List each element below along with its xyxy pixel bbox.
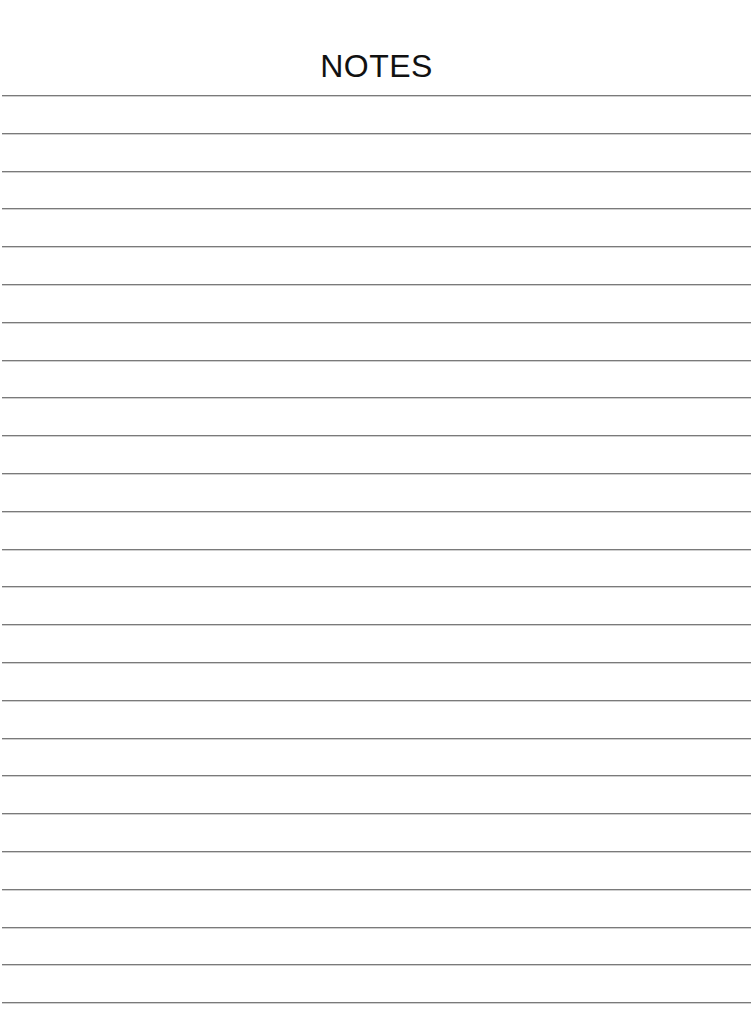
ruled-line <box>2 964 751 966</box>
ruled-line <box>2 700 751 702</box>
ruled-line <box>2 246 751 248</box>
ruled-line <box>2 662 751 664</box>
ruled-line <box>2 1002 751 1004</box>
ruled-line <box>2 95 751 97</box>
ruled-line <box>2 624 751 626</box>
ruled-line <box>2 360 751 362</box>
ruled-line <box>2 208 751 210</box>
ruled-line <box>2 171 751 173</box>
ruled-line <box>2 549 751 551</box>
ruled-line <box>2 397 751 399</box>
ruled-line <box>2 813 751 815</box>
ruled-line <box>2 775 751 777</box>
ruled-line <box>2 322 751 324</box>
ruled-line <box>2 586 751 588</box>
ruled-line <box>2 927 751 929</box>
ruled-line <box>2 511 751 513</box>
ruled-line <box>2 284 751 286</box>
ruled-line <box>2 738 751 740</box>
page-title: NOTES <box>0 47 753 85</box>
ruled-line <box>2 851 751 853</box>
ruled-line <box>2 435 751 437</box>
ruled-line <box>2 473 751 475</box>
ruled-line <box>2 133 751 135</box>
ruled-line <box>2 889 751 891</box>
